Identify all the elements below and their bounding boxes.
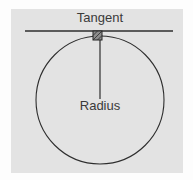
diagram-canvas: Tangent Radius bbox=[0, 0, 193, 180]
tangent-radius-diagram: Tangent Radius bbox=[0, 0, 193, 180]
tangent-label: Tangent bbox=[77, 10, 124, 25]
radius-label: Radius bbox=[80, 98, 121, 113]
right-angle-marker-icon bbox=[93, 31, 102, 40]
